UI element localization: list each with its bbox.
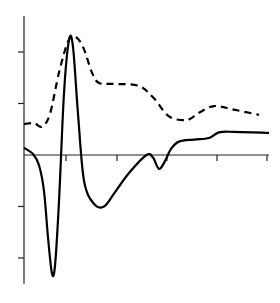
solid-line (24, 36, 269, 277)
chart-series (24, 36, 269, 277)
dashed-line (24, 36, 259, 127)
line-chart (0, 0, 280, 303)
